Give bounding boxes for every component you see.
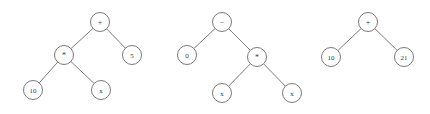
tree-node-operand: 0 xyxy=(178,46,197,65)
tree-node-operand: 10 xyxy=(322,48,341,67)
expression-tree-2: −0*xx xyxy=(178,13,302,103)
tree-node-operand: x xyxy=(213,84,232,103)
tree-node-operand: 10 xyxy=(24,81,43,100)
node-label: 0 xyxy=(185,52,189,60)
expression-tree-2-edges xyxy=(194,29,285,87)
nodes-layer: +*10x5−0*xx+1021 xyxy=(24,13,414,103)
tree-edge xyxy=(71,28,93,48)
tree-node-operand: 21 xyxy=(395,48,414,67)
node-label: 10 xyxy=(30,87,38,95)
tree-node-operand: x xyxy=(92,81,111,100)
expression-trees-figure: +*10x5−0*xx+1021 xyxy=(0,0,430,114)
trees-canvas: +*10x5−0*xx+1021 xyxy=(0,0,430,114)
tree-node-operator: * xyxy=(55,46,74,65)
node-label: + xyxy=(366,18,371,27)
tree-edge xyxy=(107,29,126,48)
edges-layer xyxy=(39,28,397,86)
node-label: 5 xyxy=(130,52,134,60)
tree-node-operand: x xyxy=(283,84,302,103)
node-label: x xyxy=(290,90,294,98)
tree-edge xyxy=(229,29,251,51)
expression-tree-3: +1021 xyxy=(322,13,414,67)
expression-tree-1-edges xyxy=(39,28,125,83)
tree-edge xyxy=(338,29,361,51)
node-label: 21 xyxy=(401,54,409,62)
tree-node-operand: 5 xyxy=(123,46,142,65)
tree-node-operator: − xyxy=(213,13,232,32)
tree-edge xyxy=(71,62,94,84)
tree-node-operator: + xyxy=(359,13,378,32)
tree-edge xyxy=(229,64,251,86)
tree-node-operator: * xyxy=(248,48,267,67)
expression-tree-1: +*10x5 xyxy=(24,13,142,100)
tree-edge xyxy=(39,62,57,83)
node-label: 10 xyxy=(328,54,336,62)
tree-edge xyxy=(264,64,286,86)
node-label: + xyxy=(98,18,103,27)
tree-node-operator: + xyxy=(91,13,110,32)
node-label: * xyxy=(62,51,66,60)
tree-edge xyxy=(194,29,215,49)
node-label: * xyxy=(255,53,259,62)
node-label: x xyxy=(220,90,224,98)
tree-edge xyxy=(375,29,397,51)
node-label: − xyxy=(220,18,225,27)
node-label: x xyxy=(99,87,103,95)
